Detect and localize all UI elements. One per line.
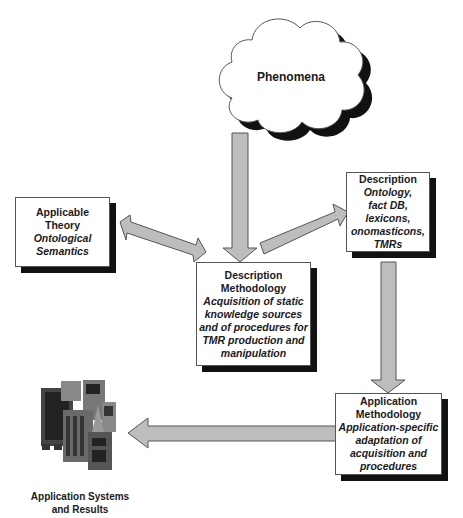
theory-title-1: Applicable: [16, 206, 109, 219]
box-description: Description Ontology, fact DB, lexicons,…: [346, 172, 430, 252]
desc-method-title-2: Methodology: [197, 282, 310, 295]
caption-line-2: and Results: [20, 503, 140, 516]
description-sub-1: Ontology,: [347, 186, 429, 199]
app-method-sub-1: Application-specific: [336, 421, 441, 434]
caption-line-1: Application Systems: [20, 490, 140, 503]
description-sub-5: TMRs: [347, 238, 429, 251]
box-description-methodology: Description Methodology Acquisition of s…: [196, 262, 311, 366]
app-method-sub-3: acquisition and: [336, 447, 441, 460]
arrow-desc-method-to-description: [260, 204, 348, 254]
arrow-theory-desc-method: [120, 215, 206, 262]
theory-sub-1: Ontological: [16, 232, 109, 245]
desc-method-sub-3: and of procedures for: [197, 321, 310, 334]
description-title: Description: [347, 173, 429, 186]
app-method-sub-4: procedures: [336, 460, 441, 473]
app-method-title-2: Methodology: [336, 408, 441, 421]
app-method-sub-2: adaptation of: [336, 434, 441, 447]
arrow-description-to-app-method: [371, 262, 405, 393]
desc-method-title-1: Description: [197, 269, 310, 282]
buildings-caption: Application Systems and Results: [20, 490, 140, 516]
box-applicable-theory: Applicable Theory Ontological Semantics: [15, 197, 110, 267]
theory-sub-2: Semantics: [16, 245, 109, 258]
app-method-title-1: Application: [336, 395, 441, 408]
arrow-app-method-to-systems: [128, 418, 336, 448]
desc-method-sub-4: TMR production and: [197, 334, 310, 347]
desc-method-sub-2: knowledge sources: [197, 308, 310, 321]
arrow-phenomena-to-desc-method: [223, 133, 257, 262]
theory-title-2: Theory: [16, 219, 109, 232]
desc-method-sub-5: manipulation: [197, 347, 310, 360]
description-sub-2: fact DB,: [347, 199, 429, 212]
description-sub-4: onomasticons,: [347, 225, 429, 238]
desc-method-sub-1: Acquisition of static: [197, 295, 310, 308]
description-sub-3: lexicons,: [347, 212, 429, 225]
box-application-methodology: Application Methodology Application-spec…: [335, 393, 442, 475]
cloud-label: Phenomena: [257, 70, 325, 84]
buildings-icon: [41, 380, 116, 470]
